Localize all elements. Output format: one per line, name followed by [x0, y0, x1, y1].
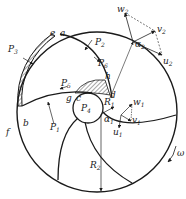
label-alpha2: α2 [135, 39, 145, 50]
label-b: b [23, 118, 29, 128]
label-a: a [60, 28, 65, 38]
label-v2: v2 [157, 24, 166, 35]
triangle-dashed-2 [155, 31, 162, 55]
w1-vector [121, 104, 132, 115]
label-w2: w2 [117, 4, 129, 15]
label-p1: P1 [49, 122, 60, 133]
rotation-arrow [168, 146, 176, 162]
impeller-diagram: e a f b g c h d P3 P2 P6 P5 P4 P1 R1 R2 … [0, 0, 186, 199]
label-w1: w1 [133, 97, 145, 108]
label-f: f [5, 127, 11, 137]
label-h: h [105, 71, 111, 81]
p1-arrow [48, 102, 54, 124]
v1-vector [121, 115, 131, 121]
label-d: d [110, 90, 116, 100]
label-u1: u1 [113, 127, 123, 138]
label-u2: u2 [163, 56, 173, 67]
label-omega: ω [177, 148, 185, 158]
label-p2: P2 [94, 37, 105, 48]
label-p3: P3 [7, 44, 18, 55]
label-alpha1: α1 [104, 114, 114, 125]
blade-lower-left [58, 118, 78, 180]
blade-lower-mid [85, 122, 132, 183]
label-r2: R2 [89, 160, 101, 171]
label-e: e [50, 28, 55, 38]
label-g: g [66, 93, 72, 103]
label-p6: P6 [97, 58, 108, 69]
label-p4: P4 [80, 103, 91, 114]
label-c: c [76, 93, 81, 103]
label-p5: P5 [60, 78, 71, 89]
label-v1: v1 [132, 115, 141, 126]
